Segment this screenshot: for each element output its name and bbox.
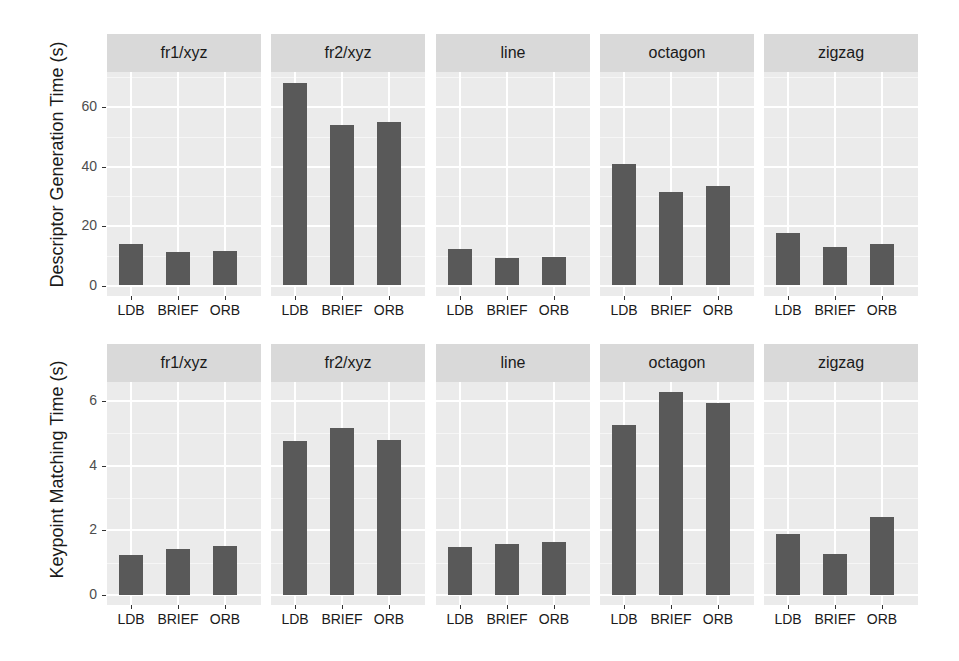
x-tick-mark [389, 296, 390, 300]
x-tick-mark [671, 605, 672, 609]
facet-strip-label: line [436, 34, 590, 72]
facet-panel-fr1-xyz: fr1/xyz [107, 344, 261, 605]
x-tick-mark [295, 296, 296, 300]
x-tick-mark [295, 605, 296, 609]
x-tick-label: ORB [359, 302, 419, 318]
x-tick-mark [507, 605, 508, 609]
y-tick-label: 0 [67, 277, 97, 293]
x-tick-mark [671, 296, 672, 300]
y-tick-mark [102, 167, 106, 168]
plot-area [271, 382, 425, 605]
x-tick-mark [624, 605, 625, 609]
x-tick-mark [342, 296, 343, 300]
facet-panel-octagon: octagon [600, 344, 754, 605]
x-tick-label: ORB [688, 302, 748, 318]
bar-orb [870, 517, 894, 595]
y-tick-mark [102, 107, 106, 108]
x-tick-label: ORB [195, 611, 255, 627]
facet-strip-label: zigzag [764, 34, 918, 72]
bar-ldb [612, 164, 636, 285]
y-tick-mark [102, 466, 106, 467]
bar-orb [377, 440, 401, 595]
facet-strip-label: zigzag [764, 344, 918, 382]
x-tick-mark [225, 605, 226, 609]
facet-strip-label: fr2/xyz [271, 34, 425, 72]
bar-brief [330, 428, 354, 595]
x-tick-label: ORB [524, 302, 584, 318]
facet-panel-zigzag: zigzag [764, 34, 918, 296]
bar-brief [166, 549, 190, 595]
facet-strip-label: fr1/xyz [107, 34, 261, 72]
facet-strip-label: fr2/xyz [271, 344, 425, 382]
bar-brief [495, 544, 519, 595]
bar-ldb [448, 249, 472, 286]
y-tick-label: 4 [67, 457, 97, 473]
facet-strip-label: line [436, 344, 590, 382]
y-tick-mark [102, 401, 106, 402]
facet-panel-fr2-xyz: fr2/xyz [271, 344, 425, 605]
x-tick-mark [178, 296, 179, 300]
y-tick-mark [102, 595, 106, 596]
x-tick-label: ORB [852, 302, 912, 318]
x-tick-mark [882, 296, 883, 300]
x-tick-label: ORB [524, 611, 584, 627]
facet-strip-label: octagon [600, 344, 754, 382]
plot-area [436, 72, 590, 296]
plot-area [107, 382, 261, 605]
x-tick-mark [131, 605, 132, 609]
bar-orb [377, 122, 401, 285]
facet-panel-octagon: octagon [600, 34, 754, 296]
x-tick-mark [389, 605, 390, 609]
bar-ldb [283, 83, 307, 286]
x-tick-label: ORB [688, 611, 748, 627]
y-tick-mark [102, 530, 106, 531]
bar-orb [706, 403, 730, 595]
plot-area [764, 382, 918, 605]
facet-strip-label: octagon [600, 34, 754, 72]
bar-orb [213, 251, 237, 285]
x-tick-mark [835, 296, 836, 300]
bar-brief [659, 392, 683, 595]
bar-ldb [283, 441, 307, 595]
bar-ldb [119, 244, 143, 286]
x-tick-mark [225, 296, 226, 300]
bar-brief [659, 192, 683, 285]
bar-ldb [448, 547, 472, 595]
x-tick-label: ORB [359, 611, 419, 627]
y-tick-mark [102, 286, 106, 287]
facet-panel-fr1-xyz: fr1/xyz [107, 34, 261, 296]
bar-orb [542, 542, 566, 595]
y-axis-title: Descriptor Generation Time (s) [47, 15, 68, 315]
x-tick-label: ORB [195, 302, 255, 318]
x-tick-mark [882, 605, 883, 609]
y-axis-title: Keypoint Matching Time (s) [47, 320, 68, 620]
x-tick-mark [624, 296, 625, 300]
y-tick-label: 6 [67, 392, 97, 408]
bar-ldb [612, 425, 636, 595]
plot-area [271, 72, 425, 296]
bar-orb [706, 186, 730, 285]
plot-area [107, 72, 261, 296]
y-tick-label: 20 [67, 217, 97, 233]
x-tick-mark [554, 605, 555, 609]
facet-panel-line: line [436, 344, 590, 605]
x-tick-mark [835, 605, 836, 609]
x-tick-label: ORB [852, 611, 912, 627]
x-tick-mark [178, 605, 179, 609]
bar-brief [495, 258, 519, 285]
x-tick-mark [788, 296, 789, 300]
bar-brief [823, 554, 847, 595]
x-tick-mark [131, 296, 132, 300]
x-tick-mark [507, 296, 508, 300]
y-tick-label: 2 [67, 521, 97, 537]
bar-ldb [776, 534, 800, 595]
bar-orb [870, 244, 894, 285]
plot-area [600, 382, 754, 605]
bar-brief [823, 247, 847, 286]
plot-area [764, 72, 918, 296]
x-tick-mark [554, 296, 555, 300]
bar-brief [330, 125, 354, 286]
bar-ldb [119, 555, 143, 595]
bar-brief [166, 252, 190, 285]
y-tick-mark [102, 226, 106, 227]
